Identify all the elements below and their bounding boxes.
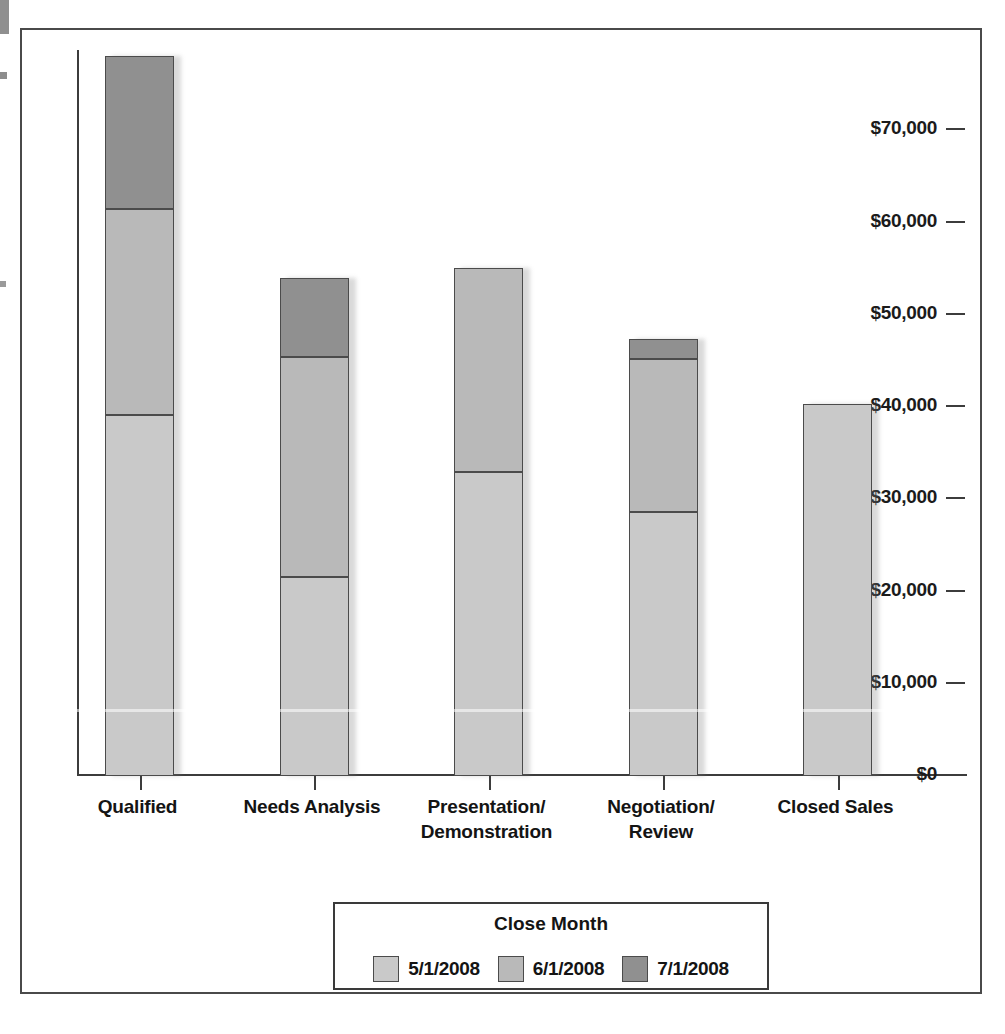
legend-item-label: 7/1/2008: [657, 958, 729, 980]
x-axis-category-label: Negotiation/Review: [571, 794, 751, 844]
bar-group[interactable]: [454, 268, 523, 776]
category-label-line: Negotiation/: [571, 794, 751, 819]
bar-segment[interactable]: [105, 209, 174, 415]
chart-frame: $70,000$60,000$50,000$40,000$30,000$20,0…: [20, 28, 982, 994]
x-axis-tick-mark: [838, 776, 840, 790]
bar-group[interactable]: [280, 278, 349, 776]
category-label-line: Review: [571, 819, 751, 844]
x-axis-category-label: Needs Analysis: [222, 794, 402, 819]
legend-item-label: 5/1/2008: [408, 958, 480, 980]
x-axis-tick-mark: [314, 776, 316, 790]
x-axis-tick-mark: [140, 776, 142, 790]
legend-item[interactable]: 6/1/2008: [498, 956, 605, 982]
bar-segment[interactable]: [280, 278, 349, 357]
legend-color-swatch: [498, 956, 524, 982]
x-axis-tick-mark: [489, 776, 491, 790]
legend-item-label: 6/1/2008: [533, 958, 605, 980]
scan-artifact-band: [77, 709, 967, 712]
legend-item-container: 5/1/20086/1/20087/1/2008: [335, 952, 767, 986]
x-axis-category-label: Closed Sales: [746, 794, 926, 819]
category-label-line: Qualified: [48, 794, 228, 819]
bar-segment[interactable]: [629, 339, 698, 359]
legend-item[interactable]: 7/1/2008: [622, 956, 729, 982]
bar-segment[interactable]: [803, 404, 872, 776]
bar-group[interactable]: [105, 56, 174, 776]
legend-title: Close Month: [335, 913, 767, 935]
x-axis-category-label: Presentation/Demonstration: [397, 794, 577, 844]
page-edge-artifact-mark: [0, 281, 6, 287]
bar-segment[interactable]: [280, 577, 349, 776]
page-edge-artifact-top: [0, 0, 9, 34]
bar-segment[interactable]: [280, 357, 349, 577]
chart-legend: Close Month 5/1/20086/1/20087/1/2008: [333, 902, 769, 990]
bar-segment[interactable]: [454, 268, 523, 472]
category-label-line: Demonstration: [397, 819, 577, 844]
bar-segment[interactable]: [105, 415, 174, 776]
x-axis-label-container: QualifiedNeeds AnalysisPresentation/Demo…: [77, 794, 967, 856]
page-edge-artifact-mark: [0, 72, 7, 79]
category-label-line: Presentation/: [397, 794, 577, 819]
legend-item[interactable]: 5/1/2008: [373, 956, 480, 982]
bar-segment[interactable]: [105, 56, 174, 208]
legend-color-swatch: [373, 956, 399, 982]
bar-segment[interactable]: [629, 359, 698, 512]
x-axis-tick-mark: [663, 776, 665, 790]
category-label-line: Closed Sales: [746, 794, 926, 819]
category-label-line: Needs Analysis: [222, 794, 402, 819]
plot-area: $70,000$60,000$50,000$40,000$30,000$20,0…: [77, 50, 967, 785]
bar-segment[interactable]: [454, 472, 523, 776]
bar-series-container: [79, 50, 967, 776]
bar-segment[interactable]: [629, 512, 698, 776]
bar-group[interactable]: [803, 404, 872, 776]
x-axis-category-label: Qualified: [48, 794, 228, 819]
legend-color-swatch: [622, 956, 648, 982]
